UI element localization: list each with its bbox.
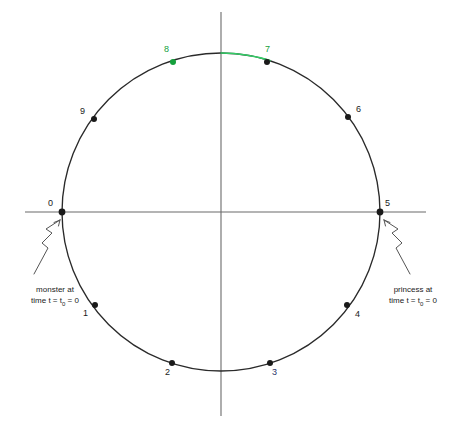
position-dot-7[interactable] xyxy=(264,59,270,65)
position-label-3: 3 xyxy=(272,367,277,377)
position-dot-6[interactable] xyxy=(345,114,351,120)
monster-annotation-line1: monster at xyxy=(10,285,100,296)
princess-time-pre: time t = t xyxy=(389,296,420,305)
position-label-6: 6 xyxy=(356,104,361,114)
monster-time-pre: time t = t xyxy=(31,296,62,305)
princess-annotation-line2: time t = t0 = 0 xyxy=(373,296,453,309)
position-dot-4[interactable] xyxy=(344,302,350,308)
position-dot-3[interactable] xyxy=(267,360,273,366)
circle-diagram-svg xyxy=(0,0,455,425)
position-label-1: 1 xyxy=(83,308,88,318)
position-dot-2[interactable] xyxy=(169,360,175,366)
princess-leader-arrow xyxy=(384,220,410,274)
monster-leader-arrow xyxy=(34,220,60,274)
position-label-0: 0 xyxy=(48,198,53,208)
position-label-8: 8 xyxy=(164,44,169,54)
position-dot-9[interactable] xyxy=(91,116,97,122)
position-dot-8[interactable] xyxy=(170,59,176,65)
position-label-2: 2 xyxy=(165,367,170,377)
position-label-4: 4 xyxy=(355,309,360,319)
princess-annotation: princess at time t = t0 = 0 xyxy=(373,285,453,309)
position-label-7: 7 xyxy=(265,44,270,54)
position-label-5: 5 xyxy=(385,198,390,208)
diagram-canvas: 0123456789 monster at time t = t0 = 0 pr… xyxy=(0,0,455,425)
position-dot-0[interactable] xyxy=(59,209,66,216)
princess-annotation-line1: princess at xyxy=(373,285,453,296)
princess-time-post: = 0 xyxy=(423,296,437,305)
position-label-9: 9 xyxy=(80,106,85,116)
monster-annotation-line2: time t = t0 = 0 xyxy=(10,296,100,309)
position-dot-5[interactable] xyxy=(377,209,384,216)
monster-annotation: monster at time t = t0 = 0 xyxy=(10,285,100,309)
highlight-arc xyxy=(221,53,270,61)
monster-time-post: = 0 xyxy=(65,296,79,305)
